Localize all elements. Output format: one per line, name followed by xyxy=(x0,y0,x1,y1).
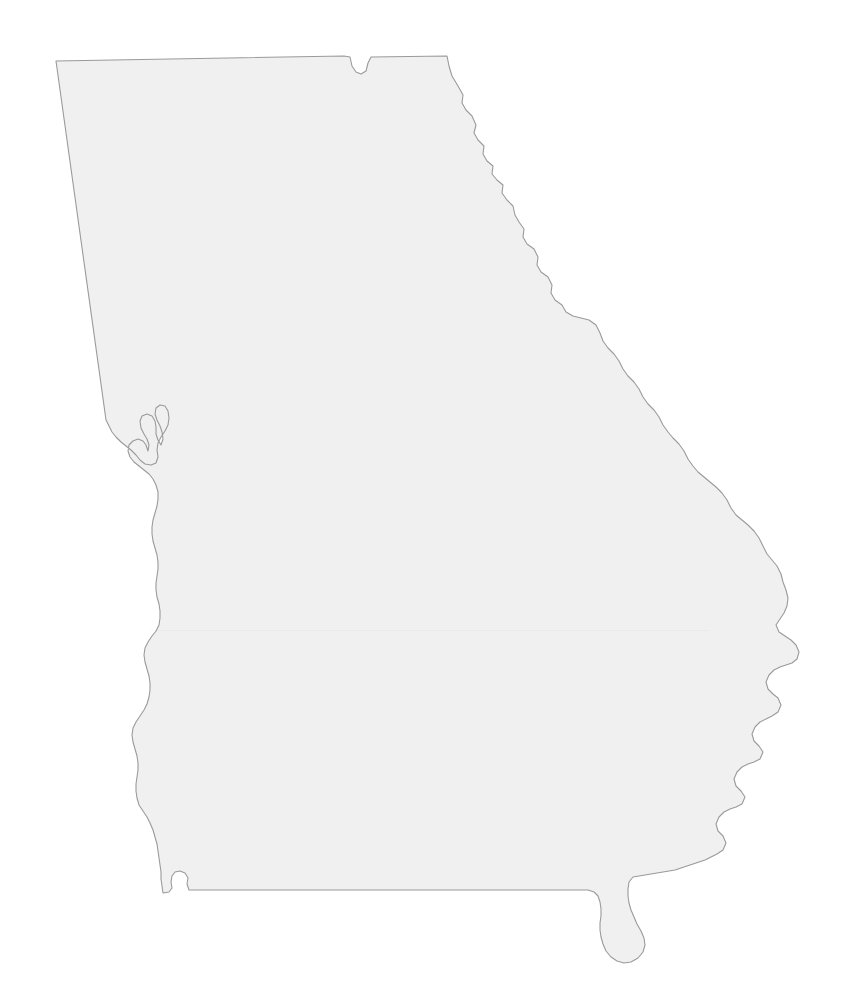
map-canvas xyxy=(0,0,856,1000)
georgia-state-boundary xyxy=(56,56,799,963)
georgia-outline-map xyxy=(0,0,856,1000)
